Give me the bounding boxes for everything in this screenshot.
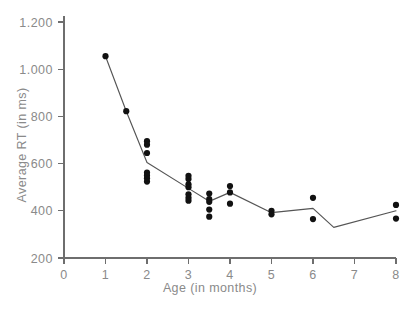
y-tick-label: 1.200 xyxy=(19,16,53,30)
data-point xyxy=(144,142,150,148)
data-point xyxy=(123,108,129,114)
data-point xyxy=(185,184,191,190)
x-tick-label: 6 xyxy=(309,268,316,282)
x-tick-label: 8 xyxy=(392,268,399,282)
data-point xyxy=(227,189,233,195)
data-point xyxy=(206,214,212,220)
data-point xyxy=(144,178,150,184)
x-axis: 012345678 xyxy=(60,258,399,282)
data-point xyxy=(393,215,399,221)
data-point xyxy=(393,202,399,208)
data-point xyxy=(268,211,274,217)
x-tick-label: 4 xyxy=(226,268,233,282)
data-point xyxy=(310,216,316,222)
data-point xyxy=(310,195,316,201)
chart-container: 2004006008001.0001.200 012345678 Age (in… xyxy=(0,0,407,318)
y-tick-label: 800 xyxy=(31,110,53,124)
x-tick-label: 1 xyxy=(102,268,109,282)
y-tick-label: 400 xyxy=(31,204,53,218)
y-tick-label: 1.000 xyxy=(19,63,53,77)
data-point xyxy=(206,207,212,213)
x-tick-label: 0 xyxy=(60,268,67,282)
data-point xyxy=(206,190,212,196)
data-point xyxy=(227,183,233,189)
y-tick-label: 600 xyxy=(31,157,53,171)
data-point xyxy=(185,176,191,182)
x-tick-label: 2 xyxy=(143,268,150,282)
data-points xyxy=(102,53,399,222)
x-tick-label: 3 xyxy=(185,268,192,282)
data-point xyxy=(102,53,108,59)
data-point xyxy=(185,198,191,204)
x-tick-label: 5 xyxy=(268,268,275,282)
data-point xyxy=(144,150,150,156)
data-point xyxy=(227,201,233,207)
x-tick-label: 7 xyxy=(351,268,358,282)
scatter-plot: 2004006008001.0001.200 012345678 Age (in… xyxy=(0,0,407,318)
y-tick-label: 200 xyxy=(31,252,53,266)
x-axis-title: Age (in months) xyxy=(163,281,257,295)
y-axis-title: Average RT (in ms) xyxy=(15,88,29,203)
data-point xyxy=(206,199,212,205)
